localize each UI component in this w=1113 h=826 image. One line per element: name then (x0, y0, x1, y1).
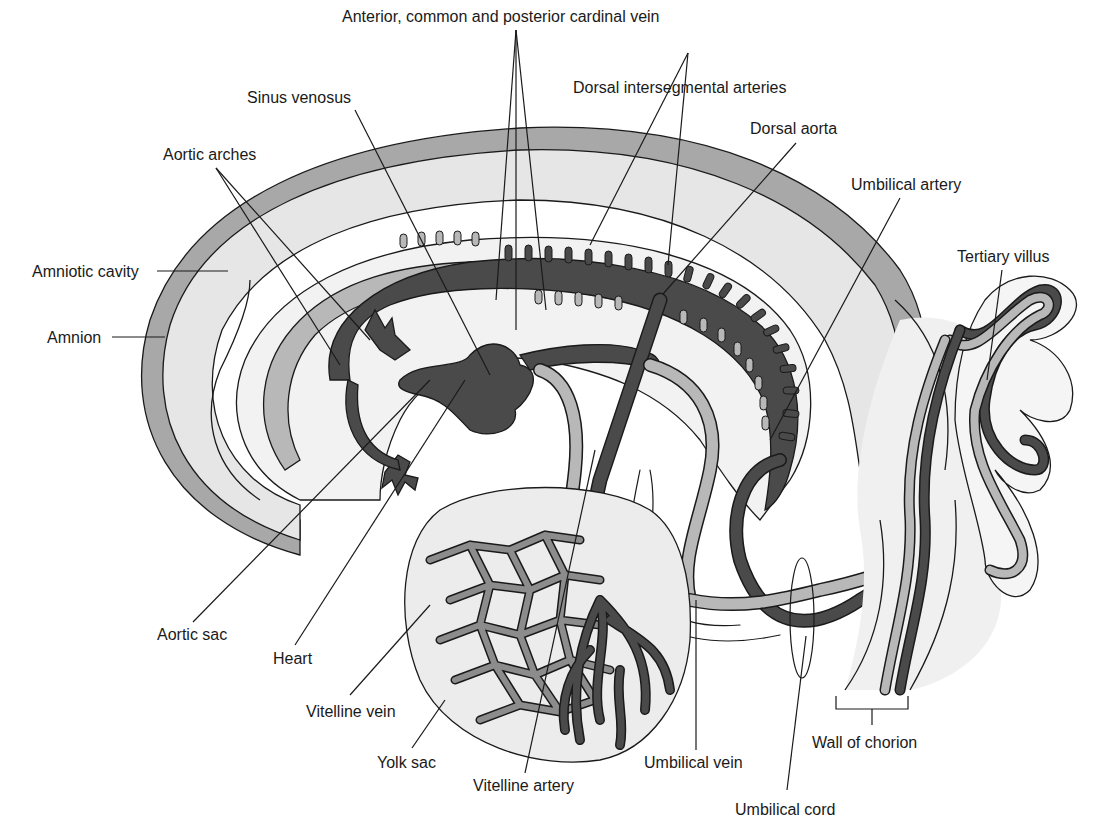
label-vitelline-vein: Vitelline vein (306, 703, 396, 720)
label-umbilical-vein: Umbilical vein (644, 754, 743, 771)
label-yolk-sac: Yolk sac (377, 754, 436, 771)
label-sinus-venosus: Sinus venosus (247, 89, 351, 106)
label-aortic-sac: Aortic sac (157, 626, 227, 643)
label-dorsal-intersegmental-arteries: Dorsal intersegmental arteries (573, 79, 786, 96)
label-amniotic-cavity: Amniotic cavity (32, 263, 139, 280)
label-umbilical-cord: Umbilical cord (735, 801, 835, 818)
label-dorsal-aorta: Dorsal aorta (750, 120, 837, 137)
label-aortic-arches: Aortic arches (163, 146, 256, 163)
embryonic-circulation-diagram: Anterior, common and posterior cardinal … (0, 0, 1113, 826)
label-umbilical-artery: Umbilical artery (851, 176, 961, 193)
label-tertiary-villus: Tertiary villus (957, 248, 1049, 265)
label-amnion: Amnion (47, 329, 101, 346)
label-heart: Heart (273, 650, 313, 667)
label-wall-of-chorion: Wall of chorion (812, 734, 917, 751)
label-vitelline-artery: Vitelline artery (473, 777, 574, 794)
label-cardinal-vein: Anterior, common and posterior cardinal … (342, 8, 660, 25)
yolk-sac (405, 488, 691, 763)
